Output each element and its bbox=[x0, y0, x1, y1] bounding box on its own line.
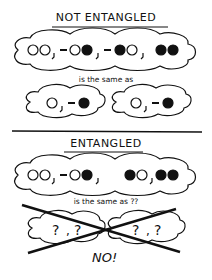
not-entangled-title: NOT ENTANGLED bbox=[0, 11, 212, 24]
comma: , bbox=[146, 224, 150, 238]
question-mark-2: ? bbox=[74, 222, 81, 238]
cloud-factor-left bbox=[26, 85, 105, 118]
question-mark-1: ? bbox=[52, 222, 59, 238]
section-divider bbox=[12, 131, 202, 132]
entangled-caption: is the same as ?? bbox=[0, 197, 212, 206]
question-mark-3: ? bbox=[132, 222, 139, 238]
comma: , bbox=[66, 224, 70, 238]
entangled-title: ENTANGLED bbox=[0, 137, 212, 150]
verdict-no: NO! bbox=[92, 250, 117, 265]
not-entangled-caption: is the same as bbox=[0, 75, 212, 84]
question-mark-4: ? bbox=[154, 222, 161, 238]
cloud-factor-right bbox=[112, 85, 191, 118]
